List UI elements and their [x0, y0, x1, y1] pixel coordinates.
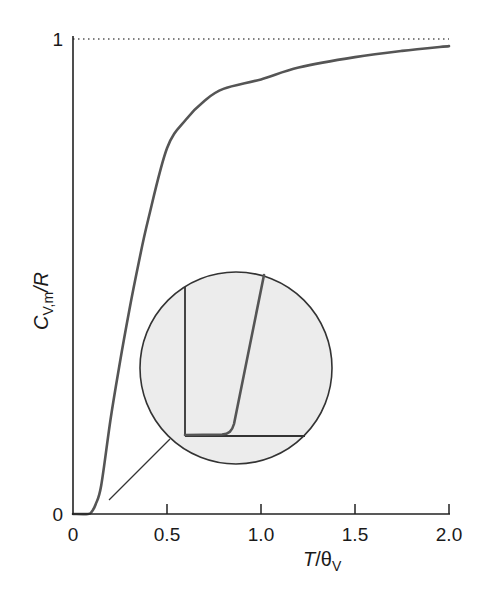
x-tick-labels: 00.51.01.52.0	[68, 524, 463, 545]
x-tick-label: 0.5	[154, 524, 180, 545]
y-tick-label: 0	[52, 504, 63, 525]
y-tick-label: 1	[52, 29, 63, 50]
inset-pointer-line	[109, 439, 170, 500]
x-tick-label: 2.0	[436, 524, 462, 545]
chart: 00.51.01.52.0 01 CV,m/R T/θV	[0, 0, 488, 604]
x-axis-label: T/θV	[303, 548, 342, 574]
x-tick-label: 1.0	[248, 524, 274, 545]
x-ticks	[167, 504, 449, 514]
y-tick-labels: 01	[52, 29, 63, 525]
magnified-inset	[140, 272, 332, 464]
x-tick-label: 0	[68, 524, 79, 545]
x-tick-label: 1.5	[342, 524, 368, 545]
y-axis-label: CV,m/R	[30, 272, 56, 330]
